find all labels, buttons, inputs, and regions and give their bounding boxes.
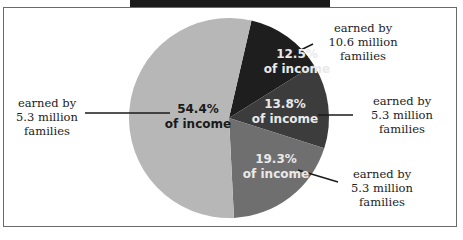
callout-line: 5.3 million bbox=[352, 108, 452, 122]
callout-12-5: earned by 10.6 million families bbox=[318, 21, 408, 63]
callout-line: 5.3 million bbox=[332, 181, 432, 195]
callout-19-3: earned by 5.3 million families bbox=[332, 167, 432, 209]
callout-line: families bbox=[352, 122, 452, 136]
percent-value: 54.4% bbox=[158, 102, 238, 117]
percent-value: 19.3% bbox=[236, 152, 316, 167]
callout-13-8: earned by 5.3 million families bbox=[352, 94, 452, 136]
callout-line: families bbox=[332, 195, 432, 209]
callout-line: earned by bbox=[352, 94, 452, 108]
slice-label-13-8: 13.8% of income bbox=[245, 97, 325, 127]
callout-line: 5.3 million bbox=[2, 110, 92, 124]
callout-line: families bbox=[318, 49, 408, 63]
percent-sublabel: of income bbox=[245, 112, 325, 127]
slice-label-54-4: 54.4% of income bbox=[158, 102, 238, 132]
percent-sublabel: of income bbox=[236, 167, 316, 182]
percent-sublabel: of income bbox=[257, 62, 337, 77]
percent-value: 13.8% bbox=[245, 97, 325, 112]
callout-line: earned by bbox=[332, 167, 432, 181]
percent-sublabel: of income bbox=[158, 117, 238, 132]
callout-54-4: earned by 5.3 million families bbox=[2, 96, 92, 138]
callout-line: earned by bbox=[318, 21, 408, 35]
slice-label-19-3: 19.3% of income bbox=[236, 152, 316, 182]
callout-line: earned by bbox=[2, 96, 92, 110]
callout-line: 10.6 million bbox=[318, 35, 408, 49]
callout-line: families bbox=[2, 124, 92, 138]
